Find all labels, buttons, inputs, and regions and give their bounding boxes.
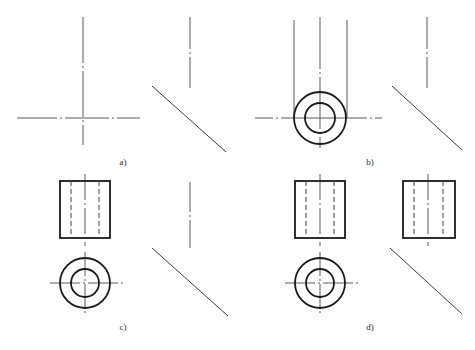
panel-b-label: b) <box>366 157 374 167</box>
technical-drawing-canvas: a) b) c) <box>0 0 475 350</box>
sheet-background <box>0 0 475 350</box>
panel-a-label: a) <box>120 157 127 167</box>
panel-d-label: d) <box>366 322 374 332</box>
drawing-sheet: a) b) c) <box>0 0 475 350</box>
panel-c-label: c) <box>120 322 127 332</box>
